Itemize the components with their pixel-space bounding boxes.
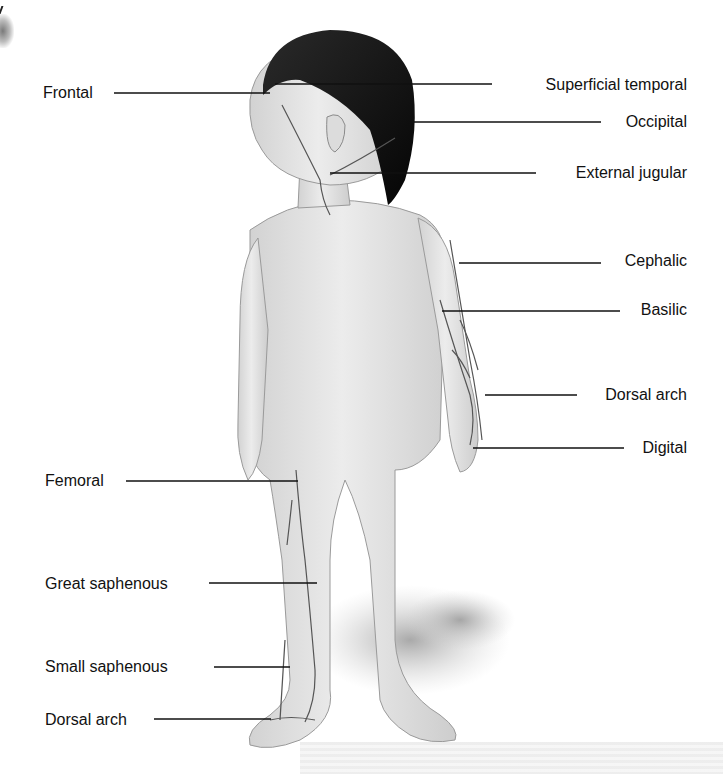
label-occipital-right: Occipital: [626, 113, 687, 131]
label-great-saphenous-left: Great saphenous: [45, 575, 168, 593]
label-dorsal-arch-left: Dorsal arch: [45, 711, 127, 729]
label-dorsal-arch-right: Dorsal arch: [605, 386, 687, 404]
label-frontal-left: Frontal: [43, 84, 93, 102]
label-digital-right: Digital: [643, 439, 687, 457]
label-small-saphenous-left: Small saphenous: [45, 658, 168, 676]
label-superficial-temporal-right: Superficial temporal: [546, 76, 687, 94]
floor-shadow: [310, 585, 515, 695]
label-external-jugular-right: External jugular: [576, 164, 687, 182]
bleed-through-table-band: [300, 742, 723, 774]
label-femoral-left: Femoral: [45, 472, 104, 490]
label-cephalic-right: Cephalic: [625, 252, 687, 270]
label-basilic-right: Basilic: [641, 301, 687, 319]
